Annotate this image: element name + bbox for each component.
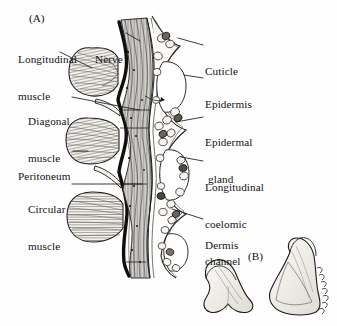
chaeta-large: [270, 238, 329, 315]
label-dermis: Dermis: [205, 214, 239, 276]
label-circular-muscle-line1: Circular: [28, 203, 65, 215]
figure-body-wall-cross-section: (A) (B) Longitudinal muscle Nerve Diagon…: [0, 0, 337, 326]
label-nerve-line1: Nerve: [95, 53, 123, 65]
leader-epidermis: [184, 75, 203, 78]
circular-muscle-bundle: [67, 192, 123, 242]
label-epidermis-line1: Epidermis: [205, 98, 252, 110]
label-diagonal-muscle-line1: Diagonal: [28, 115, 70, 127]
panel-a-drawing: [66, 16, 189, 278]
panel-tag-a: (A): [29, 12, 45, 24]
label-circular-muscle-line2: muscle: [28, 240, 65, 252]
label-circular-muscle: Circular muscle: [28, 178, 65, 277]
label-epidermal-gland-line1: Epidermal: [205, 136, 253, 148]
label-longitudinal-coelomic-channel-line1: Longitudinal: [205, 181, 264, 193]
leader-cuticle: [178, 38, 203, 45]
label-longitudinal-muscle-line1: Longitudinal: [18, 53, 77, 65]
label-nerve: Nerve: [95, 28, 123, 90]
label-dermis-line1: Dermis: [205, 239, 239, 251]
